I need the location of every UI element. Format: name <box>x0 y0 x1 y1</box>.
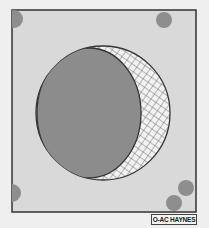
diagram-canvas <box>0 0 209 228</box>
credit-label: O-AC HAYNES <box>151 214 197 225</box>
corner-dot-bottom-right-2 <box>166 195 182 211</box>
corner-dot-top-right <box>156 12 172 28</box>
corner-dot-bottom-left <box>3 184 21 202</box>
corner-dot-top-left <box>5 10 23 28</box>
corner-dot-bottom-right-1 <box>178 180 194 196</box>
